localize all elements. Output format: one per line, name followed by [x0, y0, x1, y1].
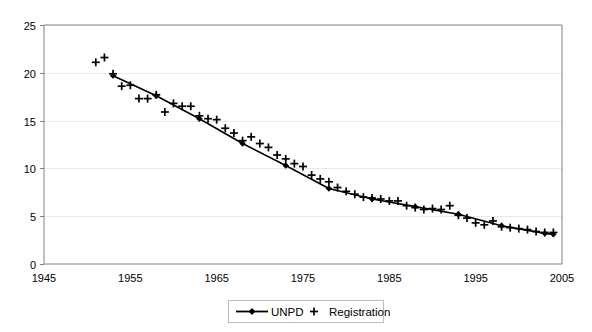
x-tick-label-1965: 1965 [204, 272, 228, 284]
x-tick-label-1985: 1985 [377, 272, 401, 284]
y-tick-label-20: 20 [24, 68, 36, 80]
x-tick-label-1955: 1955 [118, 272, 142, 284]
chart-legend: UNPD Registration [229, 301, 391, 323]
line-chart: 0510152025 1945195519651975198519952005 … [0, 0, 592, 332]
y-tick-label-25: 25 [24, 20, 36, 32]
x-tick-label-1995: 1995 [463, 272, 487, 284]
chart-container: 0510152025 1945195519651975198519952005 … [0, 0, 592, 332]
x-tick-label-2005: 2005 [550, 272, 574, 284]
legend-label-registration: Registration [329, 306, 390, 318]
y-tick-label-5: 5 [30, 211, 36, 223]
y-tick-label-0: 0 [30, 259, 36, 271]
y-tick-label-10: 10 [24, 163, 36, 175]
y-tick-label-15: 15 [24, 116, 36, 128]
x-tick-label-1945: 1945 [32, 272, 56, 284]
legend-label-unpd: UNPD [271, 306, 304, 318]
x-tick-label-1975: 1975 [291, 272, 315, 284]
